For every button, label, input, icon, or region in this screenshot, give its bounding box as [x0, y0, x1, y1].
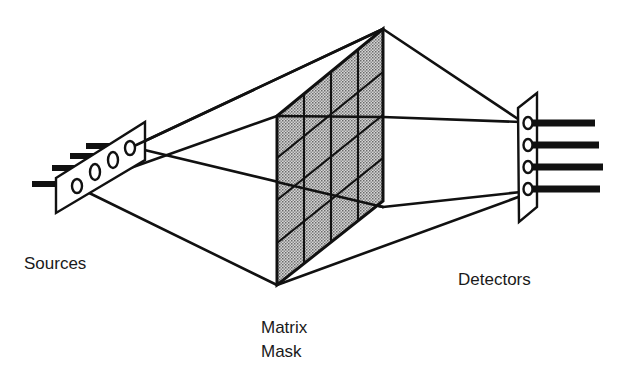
ray-mask-top-to-detector — [383, 29, 521, 121]
detector-element — [524, 139, 533, 151]
source-emitter — [90, 164, 100, 180]
ray-source-bottom-to-mask-bottom — [77, 187, 277, 285]
detector-element — [524, 183, 533, 195]
mask-label-line1: Matrix — [261, 316, 307, 340]
detector-panel — [518, 93, 537, 222]
detector-element — [524, 117, 533, 129]
matrix-mask — [277, 29, 383, 285]
ray-across-mask — [277, 116, 383, 117]
detectors-label: Detectors — [458, 268, 531, 292]
detector-element — [524, 161, 533, 173]
source-emitter — [72, 179, 82, 193]
source-emitter — [125, 141, 135, 155]
detectors-assembly — [518, 93, 603, 222]
diagram-canvas — [0, 0, 622, 383]
sources-label: Sources — [24, 252, 86, 276]
source-emitter — [108, 152, 118, 168]
ray-mask-mid-to-detector — [383, 117, 521, 122]
mask-label-line2: Mask — [261, 340, 302, 364]
